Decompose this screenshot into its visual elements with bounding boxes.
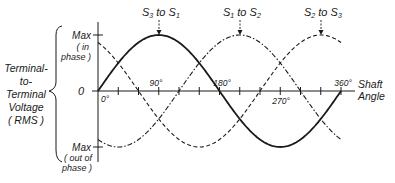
y-title-1: Terminal-	[4, 62, 48, 74]
x-title-2: Angle	[357, 90, 385, 102]
arrow-s1-to-s2	[238, 20, 243, 35]
x-label-360: 360°	[334, 78, 352, 88]
y-label-max-out: Max	[72, 142, 92, 153]
y-label-zero: 0	[78, 85, 85, 97]
phase-voltage-chart: S3 to S1 S1 to S2 S2 to S3 Max ( in phas…	[0, 0, 395, 183]
y-label-max-in: Max	[72, 30, 92, 41]
arrow-s2-to-s3	[319, 20, 324, 35]
y-label-in-phase-2: phase )	[60, 52, 91, 62]
x-title-1: Shaft	[358, 78, 384, 90]
annotation-s3-to-s1: S3 to S1	[142, 6, 180, 19]
y-label-out-phase-2: phase )	[61, 163, 92, 173]
annotation-s1-to-s2: S1 to S2	[223, 6, 261, 19]
x-label-180: 180°	[213, 78, 231, 88]
y-title-2: to-	[20, 75, 33, 87]
y-label-out-phase-1: ( out of	[64, 153, 94, 163]
y-title-3: Terminal	[6, 88, 47, 100]
x-label-0: 0°	[101, 94, 110, 104]
y-title-4: Voltage	[8, 101, 43, 113]
y-title-5: ( RMS )	[8, 114, 44, 126]
x-label-90: 90°	[150, 78, 163, 88]
y-label-in-phase-1: ( in	[76, 42, 89, 52]
x-label-270: 270°	[271, 96, 290, 106]
brace-icon	[49, 26, 62, 162]
arrow-s3-to-s1	[157, 20, 162, 35]
annotation-s2-to-s3: S2 to S3	[304, 6, 342, 19]
